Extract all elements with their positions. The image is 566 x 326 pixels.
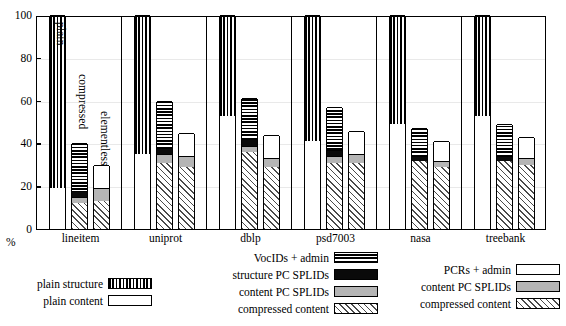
legend-label: compressed content [238,303,329,315]
legend-label: content PC SPLIDs [421,281,511,293]
legend-group-compressed: VocIDs + adminstructure PC SPLIDscontent… [188,250,378,318]
legend-label: content PC SPLIDs [239,286,329,298]
x-tick-label-psd7003: psd7003 [316,232,355,244]
y-tick-label-100: 100 [15,10,32,22]
x-axis-labels: lineitemuniprotdblppsd7003nasatreebank [36,232,546,248]
x-tick-label-lineitem: lineitem [62,232,100,244]
plot-frame [36,16,546,230]
legend: plain structureplain content VocIDs + ad… [0,250,566,326]
x-tick-label-dblp: dblp [240,232,260,244]
y-tick-label-40: 40 [21,138,33,150]
x-tick-label-uniprot: uniprot [149,232,182,244]
legend-swatch-gray [334,286,378,297]
legend-swatch-diagonal-hatch [516,298,560,309]
y-axis-unit-label: % [6,236,16,248]
legend-group-plain: plain structureplain content [22,276,152,310]
legend-swatch-gray [516,281,560,292]
plot-area: plaincompressedelementless [36,16,546,230]
legend-item-structure-pc-splids[interactable]: structure PC SPLIDs [188,267,378,282]
legend-label: structure PC SPLIDs [233,269,329,281]
legend-group-elementless: PCRs + admincontent PC SPLIDscompressed … [390,262,560,313]
legend-swatch-black [334,269,378,280]
legend-swatch-white [108,295,152,306]
y-tick-label-20: 20 [21,181,33,193]
legend-item-content-pc-splids[interactable]: content PC SPLIDs [390,279,560,294]
legend-swatch-diagonal-hatch [334,303,378,314]
legend-item-compressed-content[interactable]: compressed content [390,296,560,311]
legend-label: plain structure [37,278,103,290]
legend-label: plain content [43,295,103,307]
legend-item-plain-structure[interactable]: plain structure [22,276,152,291]
legend-label: VocIDs + admin [254,252,329,264]
legend-item-pcrs-admin[interactable]: PCRs + admin [390,262,560,277]
legend-item-compressed-content[interactable]: compressed content [188,301,378,316]
legend-item-content-pc-splids[interactable]: content PC SPLIDs [188,284,378,299]
legend-item-plain-content[interactable]: plain content [22,293,152,308]
legend-swatch-horizontal-stripes [334,252,378,263]
y-tick-label-0: 0 [26,224,32,236]
y-axis-labels: 020406080100 [0,16,32,230]
x-tick-label-treebank: treebank [486,232,526,244]
legend-label: compressed content [420,298,511,310]
legend-label: PCRs + admin [444,264,511,276]
legend-swatch-white [516,264,560,275]
legend-item-vocids-admin[interactable]: VocIDs + admin [188,250,378,265]
y-tick-label-60: 60 [21,96,33,108]
x-tick-label-nasa: nasa [410,232,430,244]
y-tick-label-80: 80 [21,53,33,65]
legend-swatch-vertical-stripes [108,278,152,289]
